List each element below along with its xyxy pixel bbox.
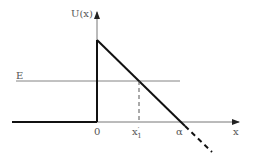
- turning-point-label: x′1: [132, 126, 142, 140]
- energy-label: E: [16, 70, 23, 81]
- turning-point-sub: 1: [137, 132, 141, 140]
- potential-slope: [97, 40, 185, 126]
- zero-crossing-label: α: [176, 126, 183, 137]
- potential-slope-extension: [185, 126, 212, 152]
- x-axis-label: x: [233, 126, 239, 137]
- origin-label: 0: [94, 126, 100, 137]
- y-axis-label: U(x): [71, 8, 93, 19]
- potential-diagram: U(x) E 0 x′1 α x: [0, 0, 253, 161]
